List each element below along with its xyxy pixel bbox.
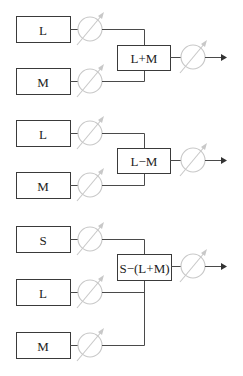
group-luminance: L M L+M — [17, 12, 228, 97]
input-label: S — [39, 233, 46, 248]
combiner-box-by: S−(L+M) — [118, 255, 172, 281]
input-label: M — [37, 75, 49, 90]
variable-gain-icon — [77, 116, 104, 149]
input-label: M — [37, 179, 49, 194]
input-box-m: M — [17, 333, 71, 359]
variable-gain-icon — [77, 222, 104, 255]
variable-gain-icon — [180, 249, 207, 282]
output-arrow-icon — [221, 54, 227, 61]
combiner-label: L−M — [131, 154, 158, 169]
input-box-m: M — [17, 173, 71, 199]
input-label: L — [39, 23, 47, 38]
combiner-box-lum: L+M — [118, 46, 171, 71]
output-arrow-icon — [221, 263, 227, 270]
combiner-label: S−(L+M) — [119, 261, 169, 276]
variable-gain-icon — [180, 40, 207, 73]
output-arrow-icon — [221, 157, 227, 164]
variable-gain-icon — [77, 328, 104, 361]
input-box-l: L — [17, 280, 71, 306]
combiner-box-rg: L−M — [118, 149, 171, 174]
variable-gain-icon — [77, 168, 104, 201]
group-red-green: L M L−M — [17, 116, 228, 201]
combiner-label: L+M — [131, 51, 158, 66]
group-blue-yellow: S L M S−(L+M) — [17, 222, 228, 361]
variable-gain-icon — [77, 275, 104, 308]
variable-gain-icon — [180, 143, 207, 176]
variable-gain-icon — [77, 64, 104, 97]
input-label: L — [39, 127, 47, 142]
input-box-l: L — [17, 121, 71, 147]
input-label: L — [39, 286, 47, 301]
variable-gain-icon — [77, 12, 104, 45]
input-label: M — [37, 339, 49, 354]
input-box-m: M — [17, 69, 71, 95]
input-box-l: L — [17, 17, 71, 43]
input-box-s: S — [17, 227, 71, 253]
diagram-canvas: L M L+M L M — [0, 0, 243, 376]
